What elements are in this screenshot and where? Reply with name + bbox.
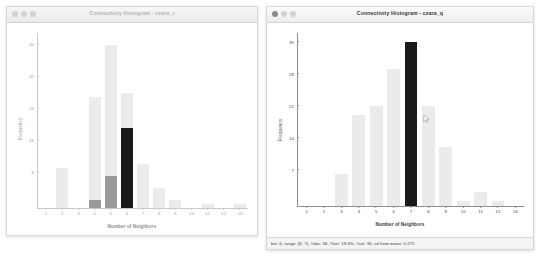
histogram-bin[interactable]: 12: [489, 33, 506, 206]
histogram-bin[interactable]: 13: [507, 33, 524, 206]
histogram-bin[interactable]: 9: [437, 33, 454, 206]
bar-segment-unselected: [137, 164, 149, 208]
plot-area-left[interactable]: 12345678910111213 816243240: [37, 33, 248, 209]
bar-segment-unselected: [352, 115, 365, 206]
window-title-left: Connectivity Histogram - ceara_r: [7, 10, 257, 16]
histogram-bar[interactable]: [56, 168, 68, 208]
histogram-bin[interactable]: 3: [333, 33, 350, 206]
window-title-right: Connectivity Histogram - ceara_q: [267, 10, 533, 16]
status-bar-text: bin: 6, range: [6, 7), #obs: 36, %tot: 1…: [267, 241, 414, 246]
bar-series-right[interactable]: 12345678910111213: [298, 33, 524, 206]
x-axis-tick: 10: [461, 209, 466, 214]
histogram-ceara-q[interactable]: Frequency 12345678910111213 714212835 Nu…: [267, 23, 533, 237]
histogram-bar[interactable]: [352, 115, 365, 206]
x-axis-tick: 9: [174, 211, 176, 216]
histogram-bar[interactable]: [335, 174, 348, 206]
x-axis-tick: 13: [513, 209, 518, 214]
x-axis-label-right: Number of Neighbors: [267, 222, 533, 227]
histogram-bin[interactable]: 13: [232, 33, 248, 208]
histogram-bar[interactable]: [89, 97, 101, 208]
histogram-bin[interactable]: 4: [350, 33, 367, 206]
window-ceara-r[interactable]: Connectivity Histogram - ceara_r Frequen…: [6, 6, 258, 236]
y-axis-tick: 21: [289, 103, 297, 108]
y-axis-tick: 8: [32, 170, 37, 175]
histogram-bin[interactable]: 10: [183, 33, 199, 208]
x-axis-tick: 7: [410, 209, 412, 214]
x-axis-tick: 3: [340, 209, 342, 214]
x-axis-tick: 13: [238, 211, 243, 216]
x-axis-tick: 4: [93, 211, 95, 216]
bar-series-left[interactable]: 12345678910111213: [38, 33, 248, 208]
x-axis-tick: 2: [323, 209, 325, 214]
histogram-bar[interactable]: [121, 93, 133, 208]
titlebar-left[interactable]: Connectivity Histogram - ceara_r: [7, 7, 257, 23]
bar-segment-unselected: [89, 97, 101, 200]
histogram-bin[interactable]: 2: [315, 33, 332, 206]
histogram-bin[interactable]: 10: [455, 33, 472, 206]
histogram-bar[interactable]: [370, 106, 383, 206]
histogram-bin[interactable]: 1: [298, 33, 315, 206]
histogram-bin[interactable]: 11: [472, 33, 489, 206]
bar-segment-unselected: [105, 45, 117, 176]
histogram-bin[interactable]: 8: [151, 33, 167, 208]
x-axis-tick: 6: [126, 211, 128, 216]
histogram-bar[interactable]: [169, 200, 181, 208]
window-body-right: Frequency 12345678910111213 714212835 Nu…: [267, 23, 533, 237]
histogram-bar[interactable]: [105, 45, 117, 208]
bar-segment-selected: [105, 176, 117, 208]
histogram-bin[interactable]: 5: [368, 33, 385, 206]
histogram-bar[interactable]: [405, 42, 418, 206]
y-axis-label-left: Frequency: [18, 118, 23, 141]
y-axis-label-right: Frequency: [278, 119, 283, 142]
bar-segment-unselected: [169, 200, 181, 208]
x-axis-tick: 9: [445, 209, 447, 214]
histogram-bar[interactable]: [474, 192, 487, 206]
y-axis-tick: 32: [29, 74, 37, 79]
x-axis-tick: 12: [221, 211, 226, 216]
bar-segment-unselected: [439, 147, 452, 206]
histogram-bin[interactable]: 6: [385, 33, 402, 206]
histogram-bar[interactable]: [153, 188, 165, 208]
histogram-bar[interactable]: [422, 106, 435, 206]
bar-segment-unselected: [422, 106, 435, 206]
bar-segment-selected: [121, 128, 133, 208]
x-axis-tick: 7: [142, 211, 144, 216]
histogram-bar[interactable]: [137, 164, 149, 208]
x-axis-tick: 2: [61, 211, 63, 216]
bar-segment-unselected: [387, 69, 400, 206]
status-bar: bin: 6, range: [6, 7), #obs: 36, %tot: 1…: [267, 237, 533, 249]
bar-segment-unselected: [153, 188, 165, 208]
bar-segment-selected: [405, 42, 418, 206]
histogram-bin[interactable]: 3: [70, 33, 86, 208]
y-axis-tick: 40: [29, 42, 37, 47]
histogram-bin[interactable]: 9: [167, 33, 183, 208]
y-axis-tick: 28: [289, 71, 297, 76]
histogram-bin[interactable]: 12: [216, 33, 232, 208]
histogram-bin[interactable]: 7: [402, 33, 419, 206]
x-axis-tick: 3: [77, 211, 79, 216]
bar-segment-selected: [89, 200, 101, 208]
desktop: Connectivity Histogram - ceara_r Frequen…: [0, 0, 538, 256]
y-axis-tick: 24: [29, 106, 37, 111]
histogram-bin[interactable]: 6: [119, 33, 135, 208]
plot-area-right[interactable]: 12345678910111213 714212835: [297, 33, 524, 207]
x-axis-tick: 6: [392, 209, 394, 214]
histogram-bar[interactable]: [387, 69, 400, 206]
histogram-bin[interactable]: 1: [38, 33, 54, 208]
histogram-bin[interactable]: 11: [200, 33, 216, 208]
x-axis-tick: 5: [375, 209, 377, 214]
histogram-bin[interactable]: 4: [86, 33, 102, 208]
y-axis-tick: 14: [289, 135, 297, 140]
histogram-ceara-r[interactable]: Frequency 12345678910111213 816243240 Nu…: [7, 23, 257, 235]
histogram-bin[interactable]: 2: [54, 33, 70, 208]
histogram-bin[interactable]: 5: [103, 33, 119, 208]
y-axis-tick: 16: [29, 138, 37, 143]
bar-segment-unselected: [56, 168, 68, 208]
window-body-left: Frequency 12345678910111213 816243240 Nu…: [7, 23, 257, 235]
histogram-bin[interactable]: 8: [420, 33, 437, 206]
window-ceara-q[interactable]: Connectivity Histogram - ceara_q Frequen…: [266, 6, 534, 250]
titlebar-right[interactable]: Connectivity Histogram - ceara_q: [267, 7, 533, 23]
histogram-bin[interactable]: 7: [135, 33, 151, 208]
histogram-bar[interactable]: [439, 147, 452, 206]
x-axis-tick: 4: [358, 209, 360, 214]
